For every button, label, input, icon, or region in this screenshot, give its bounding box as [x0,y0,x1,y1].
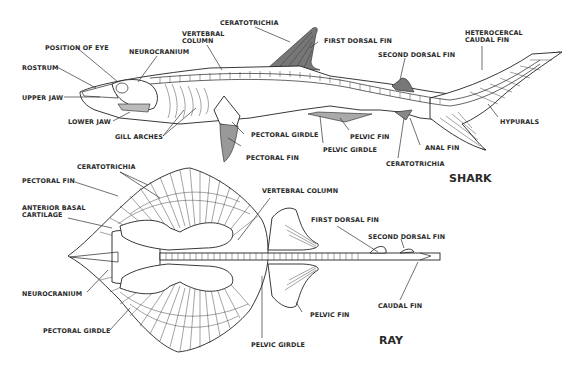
ray-second-dorsal-fin [400,249,414,253]
label-shark-hypurals: HYPURALS [500,118,539,126]
label-ray-pectoral-fin: PECTORAL FIN [22,177,75,185]
label-ray-pelvic-girdle: PELVIC GIRDLE [251,341,305,349]
shark-caudal-fin [430,52,562,150]
label-shark-first-dorsal-fin: FIRST DORSAL FIN [324,37,392,45]
label-shark-ceratotrichia: CERATOTRICHIA [220,19,279,27]
label-ray-anterior-basal-cartilage-2: CARTILAGE [22,211,63,219]
shark-pelvic-fin [308,112,372,122]
label-shark-heterocercal-caudal-fin-2: CAUDAL FIN [465,36,509,44]
label-shark-neurocranium: NEUROCRANIUM [129,48,189,56]
label-shark-pectoral-girdle: PECTORAL GIRDLE [251,131,318,139]
ray-pelvic-fin-lower [268,264,318,308]
label-shark-position-of-eye: POSITION OF EYE [45,44,109,52]
label-shark-gill-arches: GILL ARCHES [115,133,163,141]
label-shark-ceratotrichia-anal: CERATOTRICHIA [386,160,445,168]
label-shark-vertebral-column-2: COLUMN [182,37,213,45]
label-ray-neurocranium: NEUROCRANIUM [22,290,82,298]
ray-drawing [68,168,440,352]
title-ray: RAY [379,334,404,347]
label-shark-anal-fin: ANAL FIN [425,144,459,152]
label-ray-first-dorsal-fin: FIRST DORSAL FIN [311,216,379,224]
label-ray-pelvic-fin: PELVIC FIN [310,311,350,319]
label-shark-second-dorsal-fin: SECOND DORSAL FIN [378,51,455,59]
label-shark-upper-jaw: UPPER JAW [22,94,63,102]
label-shark-lower-jaw: LOWER JAW [68,118,111,126]
label-ray-pectoral-girdle: PECTORAL GIRDLE [43,327,110,335]
label-shark-pelvic-girdle: PELVIC GIRDLE [323,146,377,154]
ray-pelvic-fin-upper [268,208,318,250]
anatomy-diagram: CERATOTRICHIA VERTEBRAL COLUMN FIRST DOR… [0,0,565,388]
shark-pectoral-fin [220,124,238,162]
shark-first-dorsal-fin [268,27,320,70]
label-shark-rostrum: ROSTRUM [22,64,59,72]
label-shark-pectoral-fin: PECTORAL FIN [246,154,299,162]
label-ray-vertebral-column: VERTEBRAL COLUMN [262,187,338,195]
label-ray-caudal-fin: CAUDAL FIN [378,302,422,310]
label-shark-pelvic-fin: PELVIC FIN [350,133,390,141]
title-shark: SHARK [449,172,492,185]
label-ray-ceratotrichia: CERATOTRICHIA [77,163,136,171]
ray-first-dorsal-fin [370,246,386,253]
label-ray-second-dorsal-fin: SECOND DORSAL FIN [368,233,445,241]
